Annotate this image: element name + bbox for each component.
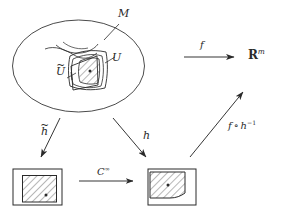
compose-ring-operator: ∘	[232, 120, 241, 131]
chart-domain-U-tilde-label: ~ U	[56, 66, 65, 77]
euclidean-dimension-superscript: m	[258, 47, 265, 56]
manifold-point-marker	[89, 70, 92, 73]
arrow-h-label: h	[143, 130, 150, 141]
tilde-accent-h: ~	[40, 120, 49, 130]
arrow-h	[113, 118, 146, 157]
arrow-f-compose-h-inverse-label: f∘h−1	[228, 120, 256, 131]
arrow-transition-map-label: C∞	[97, 166, 110, 177]
chart-domain-U-label: U	[112, 52, 121, 63]
euclidean-space-label: Rm	[248, 48, 265, 61]
chart-square-right	[148, 169, 196, 205]
transition-C-symbol: C	[97, 166, 105, 177]
manifold-label: M	[118, 8, 129, 19]
blackboard-R-symbol: R	[248, 48, 258, 62]
infinity-superscript: ∞	[105, 165, 110, 172]
manifold-chart-diagram: M U ~ U f Rm ~ h h f∘h−1 C∞	[0, 0, 283, 218]
inverse-exponent: −1	[247, 119, 256, 126]
diagram-canvas	[0, 0, 283, 218]
manifold-ellipse	[13, 20, 145, 112]
tilde-accent-U: ~	[56, 60, 65, 70]
chart-square-left	[13, 169, 62, 205]
arrow-h-tilde-label: ~ h	[41, 126, 48, 137]
arrow-f-label: f	[200, 40, 204, 50]
